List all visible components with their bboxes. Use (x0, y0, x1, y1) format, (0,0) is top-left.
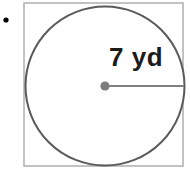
radius-measure-label: 7 yd (109, 44, 163, 70)
geometry-figure: 7 yd (0, 0, 190, 173)
figure-canvas (0, 0, 190, 173)
circle-center-point-marker (100, 81, 109, 90)
list-bullet-icon (3, 17, 8, 22)
